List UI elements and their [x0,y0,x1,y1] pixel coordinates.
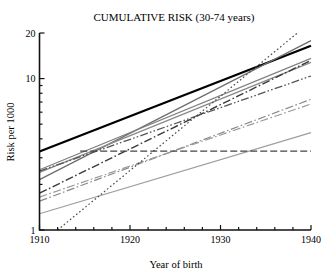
series-line-2 [40,41,312,180]
series-layer [40,33,312,230]
chart-title: CUMULATIVE RISK (30-74 years) [93,11,254,24]
chart-figure: CUMULATIVE RISK (30-74 years) Year of bi… [0,0,325,274]
x-tick-label-1910: 1910 [30,234,50,245]
x-tick-label-1920: 1920 [120,234,140,245]
y-tick-label-10: 10 [26,73,36,84]
series-line-3 [40,58,312,169]
cumulative-risk-line-chart: CUMULATIVE RISK (30-74 years) Year of bi… [0,0,325,274]
x-tick-label-1930: 1930 [211,234,231,245]
series-line-6 [40,76,312,171]
y-tick-label-20: 20 [26,28,36,39]
x-axis-label: Year of birth [149,259,203,270]
x-tick-label-1940: 1940 [301,234,321,245]
y-axis-label: Risk per 1000 [5,103,16,162]
